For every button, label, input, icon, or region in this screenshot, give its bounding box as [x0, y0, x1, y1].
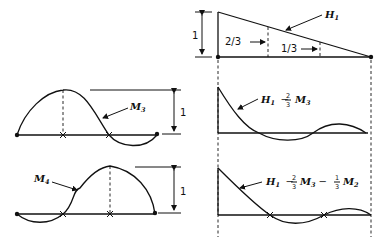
- m3-curve: [17, 90, 157, 146]
- panel-h1-minus-m3-m2: H1 − 2 3 M3− 1 3 M2: [218, 168, 371, 223]
- frac2-numerator: 1: [335, 174, 339, 182]
- frac-denominator: 3: [286, 101, 290, 109]
- one-third-label: 1/3: [281, 43, 297, 54]
- height-label: 1: [180, 186, 186, 197]
- formula-label: H1 −: [260, 94, 289, 107]
- support-dot-right: [155, 132, 159, 136]
- formula-label: H1 −: [265, 176, 294, 189]
- height-label: 1: [180, 107, 186, 118]
- m3-term: M3: [294, 94, 311, 107]
- support-dot-left: [15, 212, 19, 216]
- support-dot-left: [15, 133, 19, 137]
- panel-m3-influence-line: 1 M3: [15, 90, 187, 146]
- leader-arrow: [52, 182, 77, 190]
- frac1-numerator: 2: [292, 174, 296, 182]
- h1-minus-m3-curve: [218, 87, 366, 140]
- height-label: 1: [192, 30, 198, 41]
- m2-term: M2: [342, 176, 359, 189]
- frac-numerator: 2: [286, 92, 290, 100]
- h1-leader-arrow: [286, 15, 322, 30]
- h1-label: H1: [324, 9, 339, 22]
- influence-line-diagram: 1 2/3 1/3 H1 H1 − 2 3 M3: [0, 0, 387, 237]
- panel-h1-influence-line: 1 2/3 1/3 H1: [192, 9, 373, 59]
- leader-arrow: [103, 108, 128, 118]
- panel-h1-minus-m3: H1 − 2 3 M3: [218, 87, 368, 140]
- two-thirds-label: 2/3: [225, 36, 241, 47]
- frac1-denominator: 3: [292, 183, 296, 191]
- support-dot-right: [369, 55, 373, 59]
- support-dot-left: [216, 55, 220, 59]
- support-dot-right: [153, 211, 157, 215]
- panel-m4-influence-line: 1 M4: [15, 166, 187, 222]
- m3-term: M3−: [299, 176, 327, 189]
- m4-label: M4: [33, 173, 50, 186]
- leader-arrow: [238, 99, 258, 109]
- frac2-denominator: 3: [335, 183, 339, 191]
- leader-arrow: [240, 182, 262, 188]
- m3-label: M3: [129, 101, 146, 114]
